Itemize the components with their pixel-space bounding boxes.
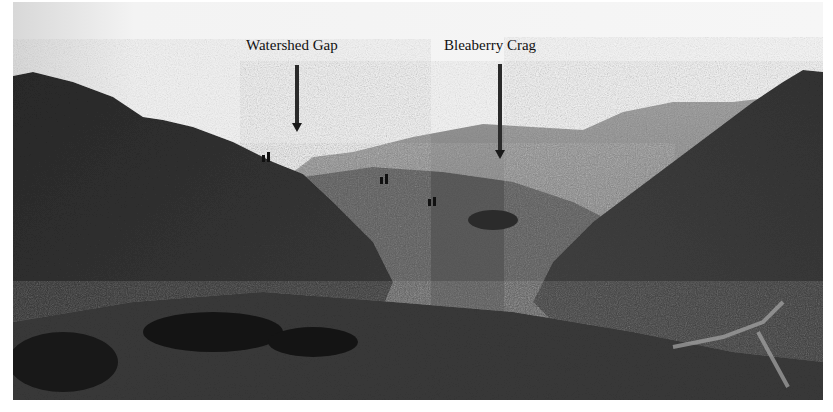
arrow-bleaberry-crag	[498, 64, 502, 152]
shadow-patch	[13, 332, 118, 392]
landscape-photo	[13, 2, 823, 400]
label-watershed-gap: Watershed Gap	[246, 37, 338, 54]
label-bleaberry-crag: Bleaberry Crag	[444, 37, 536, 54]
shadow-patch	[268, 327, 358, 357]
shadow-patch	[143, 312, 283, 352]
shadow-patch	[468, 210, 518, 230]
arrow-watershed-gap	[295, 65, 299, 125]
landscape-illustration	[13, 2, 823, 400]
